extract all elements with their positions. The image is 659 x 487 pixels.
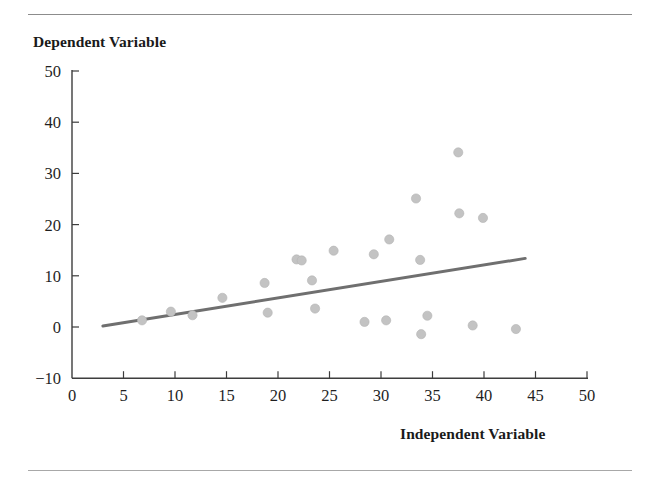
data-point-17 xyxy=(417,330,426,339)
plot-svg: −100102030405005101520253035404550 xyxy=(0,0,659,487)
x-tick-label-0: 0 xyxy=(68,386,76,405)
y-tick-label-30: 30 xyxy=(45,164,62,183)
data-point-16 xyxy=(416,255,425,264)
x-tick-label-35: 35 xyxy=(424,386,441,405)
data-point-4 xyxy=(260,278,269,287)
data-point-20 xyxy=(455,209,464,218)
data-point-2 xyxy=(188,311,197,320)
x-tick-label-30: 30 xyxy=(373,386,390,405)
data-point-21 xyxy=(468,321,477,330)
data-point-0 xyxy=(137,316,146,325)
data-point-10 xyxy=(329,246,338,255)
y-tick-label-10: 10 xyxy=(45,267,62,286)
x-tick-label-50: 50 xyxy=(579,386,596,405)
x-tick-label-25: 25 xyxy=(321,386,338,405)
data-point-14 xyxy=(385,235,394,244)
x-tick-label-40: 40 xyxy=(476,386,493,405)
y-tick-label-0: 0 xyxy=(53,318,61,337)
figure-container: Dependent Variable −10010203040500510152… xyxy=(0,0,659,487)
y-tick-label--10: −10 xyxy=(35,369,61,388)
data-point-15 xyxy=(411,194,420,203)
x-axis-title: Independent Variable xyxy=(400,425,545,443)
y-tick-label-50: 50 xyxy=(45,62,62,81)
data-point-13 xyxy=(382,316,391,325)
scatter-plot: −100102030405005101520253035404550 xyxy=(0,0,659,487)
data-point-1 xyxy=(166,307,175,316)
tick-group xyxy=(72,71,587,378)
data-point-3 xyxy=(218,293,227,302)
bottom-divider-rule xyxy=(28,470,632,471)
trend-line-group xyxy=(103,258,525,326)
data-point-7 xyxy=(297,256,306,265)
y-tick-label-20: 20 xyxy=(45,216,62,235)
data-point-8 xyxy=(307,276,316,285)
data-point-12 xyxy=(369,250,378,259)
x-tick-label-5: 5 xyxy=(119,386,127,405)
data-point-19 xyxy=(454,148,463,157)
y-tick-label-40: 40 xyxy=(45,113,62,132)
data-point-23 xyxy=(511,324,520,333)
regression-trend-line xyxy=(103,258,525,326)
x-tick-label-10: 10 xyxy=(167,386,184,405)
tick-label-group: −100102030405005101520253035404550 xyxy=(35,62,595,405)
data-point-18 xyxy=(423,311,432,320)
data-point-5 xyxy=(263,308,272,317)
x-tick-label-45: 45 xyxy=(527,386,544,405)
x-tick-label-15: 15 xyxy=(218,386,235,405)
data-point-9 xyxy=(310,304,319,313)
x-tick-label-20: 20 xyxy=(270,386,287,405)
axes-group xyxy=(72,70,588,378)
data-point-22 xyxy=(478,213,487,222)
data-point-11 xyxy=(360,317,369,326)
